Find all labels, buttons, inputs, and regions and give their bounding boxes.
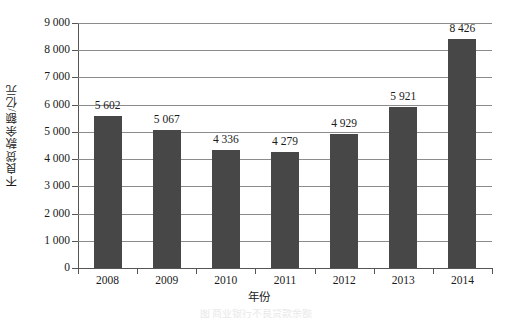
y-axis-tick-label: 2 000: [44, 208, 70, 220]
bar-value-label: 4 279: [255, 136, 315, 148]
y-axis-tick-label: 0: [64, 262, 70, 274]
bar-value-label: 4 929: [314, 118, 374, 130]
y-axis-tick-label: 3 000: [44, 181, 70, 193]
y-axis-title-label: 不良贷款余额/亿元: [7, 83, 19, 187]
bar: [271, 152, 299, 268]
bar-value-label: 4 336: [196, 134, 256, 146]
bar-series: 5 6025 0674 3364 2794 9295 9218 426: [78, 23, 492, 268]
x-axis-tick-mark: [433, 269, 434, 274]
y-axis-tick-label: 5 000: [44, 126, 70, 138]
x-axis-title-label: 年份: [248, 292, 271, 304]
bar-value-label: 8 426: [432, 23, 492, 35]
bar: [153, 130, 181, 268]
bar-chart-figure: 不良贷款余额/亿元 01 0002 0003 0004 0005 0006 00…: [0, 0, 512, 318]
x-axis-tick-mark: [255, 269, 256, 274]
x-axis-tick-mark: [78, 269, 79, 274]
plot-area: 5 6025 0674 3364 2794 9295 9218 426: [78, 23, 492, 268]
x-axis-tick-mark: [137, 269, 138, 274]
y-axis-tick-labels: 01 0002 0003 0004 0005 0006 0007 0008 00…: [26, 0, 74, 318]
bar: [448, 39, 476, 268]
y-axis-title: 不良贷款余额/亿元: [0, 0, 26, 270]
y-axis-tick-label: 8 000: [44, 44, 70, 56]
y-axis-tick-label: 6 000: [44, 99, 70, 111]
bar: [330, 134, 358, 268]
x-axis-title: 年份: [78, 292, 492, 304]
bar-value-label: 5 602: [78, 100, 138, 112]
x-axis-tick-label: 2010: [196, 275, 256, 287]
x-axis-tick-label: 2012: [314, 275, 374, 287]
bar: [94, 116, 122, 268]
y-axis-tick-label: 1 000: [44, 235, 70, 247]
bar-value-label: 5 067: [137, 114, 197, 126]
x-axis-tick-label: 2009: [137, 275, 197, 287]
x-axis-tick-labels: 2008200920102011201220132014: [78, 275, 492, 291]
figure-caption: 图 商业银行不良贷款余额: [0, 309, 512, 318]
x-axis-tick-label: 2011: [255, 275, 315, 287]
y-axis-tick-label: 9 000: [44, 17, 70, 29]
bar: [389, 107, 417, 268]
y-axis-tick-label: 7 000: [44, 72, 70, 84]
x-axis-tick-mark: [196, 269, 197, 274]
x-axis-tick-label: 2013: [373, 275, 433, 287]
x-axis-tick-label: 2014: [432, 275, 492, 287]
bar-value-label: 5 921: [373, 91, 433, 103]
x-axis-tick-mark: [315, 269, 316, 274]
x-axis-tick-mark: [374, 269, 375, 274]
x-axis-spine: [78, 268, 493, 269]
y-axis-tick-label: 4 000: [44, 153, 70, 165]
x-axis-tick-label: 2008: [78, 275, 138, 287]
x-axis-tick-mark: [492, 269, 493, 274]
bar: [212, 150, 240, 268]
